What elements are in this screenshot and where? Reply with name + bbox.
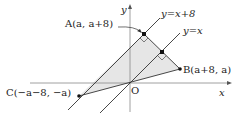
label-origin: O <box>131 86 139 96</box>
shaded-region <box>79 34 180 96</box>
label-point-C: C(−a−8, −a) <box>6 88 71 98</box>
point-C <box>77 94 81 98</box>
label-point-A: A(a, a+8) <box>65 19 113 29</box>
label-y-axis: y <box>121 5 127 15</box>
coordinate-diagram: A(a, a+8) B(a+8, a) C(−a−8, −a) y=x+8 y=… <box>0 0 238 115</box>
label-line-y-eq-x-plus-8: y=x+8 <box>161 9 195 19</box>
point-A <box>142 32 146 36</box>
label-x-axis: x <box>219 88 225 98</box>
point-B <box>178 67 182 71</box>
pointer-arrow-A <box>118 27 141 32</box>
label-point-B: B(a+8, a) <box>183 65 231 75</box>
y-axis-arrow-icon <box>128 4 132 9</box>
x-axis-arrow-icon <box>227 81 232 85</box>
point-intersection <box>160 50 164 54</box>
label-line-y-eq-x: y=x <box>183 26 203 36</box>
